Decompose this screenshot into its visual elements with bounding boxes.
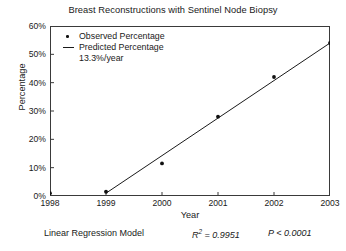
legend-item-observed: Observed Percentage — [62, 31, 212, 42]
data-point — [216, 115, 220, 119]
chart-footer: Linear Regression Model R2 = 0.9951 P < … — [0, 228, 346, 244]
legend-label-observed: Observed Percentage — [79, 31, 165, 41]
x-axis-title: Year — [50, 210, 330, 220]
x-tick-label: 2001 — [195, 198, 241, 208]
r-squared-exponent: 2 — [199, 228, 203, 235]
y-tick-label: 40% — [2, 78, 46, 88]
x-tick-label: 1998 — [27, 198, 73, 208]
legend-item-predicted: Predicted Percentage — [62, 42, 212, 53]
p-value-annotation: P < 0.0001 — [268, 228, 311, 238]
y-tick-label: 50% — [2, 49, 46, 59]
regression-model-label: Linear Regression Model — [44, 228, 144, 238]
chart-title: Breast Reconstructions with Sentinel Nod… — [0, 5, 346, 15]
dot-marker-icon — [66, 35, 69, 38]
chart-figure: Breast Reconstructions with Sentinel Nod… — [0, 0, 346, 251]
y-axis-tick-labels: 0%10%20%30%40%50%60% — [0, 26, 46, 196]
x-tick-label: 2000 — [139, 198, 185, 208]
x-tick-label: 1999 — [83, 198, 129, 208]
data-point — [160, 162, 164, 166]
chart-legend: Observed Percentage Predicted Percentage… — [62, 31, 212, 64]
data-point — [272, 75, 276, 79]
line-marker-icon — [63, 47, 74, 48]
y-tick-label: 60% — [2, 21, 46, 31]
r-squared-annotation: R2 = 0.9951 — [192, 228, 240, 240]
y-tick-label: 30% — [2, 106, 46, 116]
y-tick-label: 20% — [2, 134, 46, 144]
legend-label-predicted: Predicted Percentage — [79, 42, 164, 52]
legend-label-rate: 13.3%/year — [62, 53, 212, 64]
data-point — [104, 190, 108, 194]
r-squared-value: = 0.9951 — [205, 230, 240, 240]
y-axis-ticks — [50, 26, 54, 196]
x-tick-label: 2003 — [307, 198, 346, 208]
y-tick-label: 10% — [2, 163, 46, 173]
x-axis-ticks — [50, 192, 330, 196]
observed-percentage-points — [50, 41, 330, 195]
x-tick-label: 2002 — [251, 198, 297, 208]
data-point — [50, 191, 52, 195]
